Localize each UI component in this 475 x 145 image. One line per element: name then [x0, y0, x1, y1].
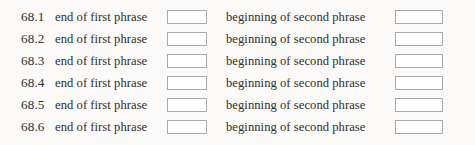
prompt-beginning-of-second-phrase: beginning of second phrase	[226, 98, 389, 113]
answer-box-second-phrase[interactable]	[395, 98, 443, 112]
exercise-number: 68.6	[0, 119, 55, 135]
answer-box-first-phrase[interactable]	[167, 32, 207, 46]
answer-box-first-phrase[interactable]	[167, 76, 207, 90]
exercise-row: 68.6 end of first phrase beginning of se…	[0, 116, 475, 138]
exercise-number: 68.1	[0, 9, 55, 25]
answer-box-first-phrase[interactable]	[167, 10, 207, 24]
answer-box-second-phrase[interactable]	[395, 32, 443, 46]
exercise-number: 68.2	[0, 31, 55, 47]
answer-box-first-phrase[interactable]	[167, 98, 207, 112]
answer-box-second-phrase[interactable]	[395, 54, 443, 68]
worksheet-exercise-list: 68.1 end of first phrase beginning of se…	[0, 0, 475, 145]
prompt-end-of-first-phrase: end of first phrase	[55, 10, 165, 25]
prompt-end-of-first-phrase: end of first phrase	[55, 98, 165, 113]
answer-box-first-phrase[interactable]	[167, 54, 207, 68]
answer-box-second-phrase[interactable]	[395, 76, 443, 90]
exercise-number: 68.3	[0, 53, 55, 69]
prompt-end-of-first-phrase: end of first phrase	[55, 76, 165, 91]
answer-box-first-phrase[interactable]	[167, 120, 207, 134]
exercise-row: 68.5 end of first phrase beginning of se…	[0, 94, 475, 116]
prompt-end-of-first-phrase: end of first phrase	[55, 32, 165, 47]
exercise-number: 68.4	[0, 75, 55, 91]
prompt-end-of-first-phrase: end of first phrase	[55, 54, 165, 69]
prompt-end-of-first-phrase: end of first phrase	[55, 120, 165, 135]
answer-box-second-phrase[interactable]	[395, 10, 443, 24]
exercise-row: 68.4 end of first phrase beginning of se…	[0, 72, 475, 94]
exercise-number: 68.5	[0, 97, 55, 113]
prompt-beginning-of-second-phrase: beginning of second phrase	[226, 54, 389, 69]
exercise-row: 68.1 end of first phrase beginning of se…	[0, 6, 475, 28]
prompt-beginning-of-second-phrase: beginning of second phrase	[226, 10, 389, 25]
prompt-beginning-of-second-phrase: beginning of second phrase	[226, 32, 389, 47]
prompt-beginning-of-second-phrase: beginning of second phrase	[226, 76, 389, 91]
prompt-beginning-of-second-phrase: beginning of second phrase	[226, 120, 389, 135]
exercise-row: 68.3 end of first phrase beginning of se…	[0, 50, 475, 72]
exercise-row: 68.2 end of first phrase beginning of se…	[0, 28, 475, 50]
answer-box-second-phrase[interactable]	[395, 120, 443, 134]
